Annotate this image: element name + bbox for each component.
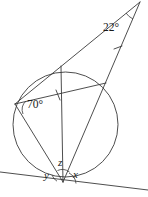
angle-label-z: z <box>58 157 62 168</box>
tick-mark-chord <box>56 90 60 100</box>
angle-label-y: y <box>44 170 49 181</box>
angle-label-apex: 22° <box>103 22 119 34</box>
angle-arc-left-vertex <box>22 101 26 114</box>
geometry-figure: 22° 70° z x y <box>0 0 148 197</box>
secant-line-upper <box>15 2 140 104</box>
main-circle <box>13 72 118 177</box>
secant-line-lower <box>63 2 140 182</box>
angle-label-x: x <box>73 169 78 180</box>
angle-label-inscribed: 70° <box>27 99 43 111</box>
angle-arc-apex <box>126 13 133 19</box>
